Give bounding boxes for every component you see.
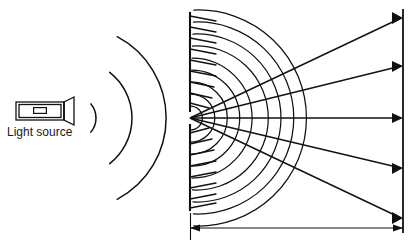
- bottom-caption: [0, 239, 420, 248]
- incoming-wavefronts: [91, 37, 166, 200]
- ray-arrowheads: [392, 12, 403, 224]
- barrier-hatching-lower: [190, 128, 216, 208]
- slit-to-screen-dimension: [190, 213, 403, 240]
- light-source-label: Light source: [7, 126, 72, 139]
- barrier-hatching-upper: [190, 16, 216, 108]
- diffracted-rays: [190, 18, 401, 218]
- diagram-canvas: [0, 0, 420, 248]
- flashlight-icon: [16, 97, 74, 125]
- diffraction-diagram: Light source: [0, 0, 420, 248]
